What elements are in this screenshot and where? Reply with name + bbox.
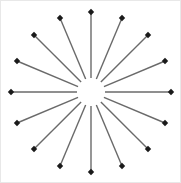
arrow-tip-wsw (14, 120, 20, 126)
arrow-tip-nne (119, 15, 125, 21)
arrow-tip-wnw (14, 58, 20, 64)
arrow-tip-ese (162, 120, 168, 126)
ray-shaft-nw (34, 35, 81, 82)
ray-shaft-ese (104, 97, 165, 123)
ray-shaft-ne (101, 35, 148, 82)
arrow-tip-ssw (57, 163, 63, 169)
ray-shaft-sse (96, 105, 122, 166)
starburst-canvas (1, 1, 181, 183)
arrow-tip-e (168, 89, 174, 95)
arrow-tip-sse (119, 163, 125, 169)
arrow-tip-s (88, 169, 94, 175)
ray-shaft-ssw (60, 105, 86, 166)
arrow-tip-w (8, 89, 14, 95)
ray-shaft-wnw (17, 61, 78, 87)
ray-shaft-ene (104, 61, 165, 87)
arrow-tip-n (88, 9, 94, 15)
ray-shaft-nnw (60, 18, 86, 79)
arrow-tip-nnw (57, 15, 63, 21)
ray-shaft-wsw (17, 97, 78, 123)
arrow-tip-ene (162, 58, 168, 64)
ray-shaft-se (101, 102, 148, 149)
ray-shaft-nne (96, 18, 122, 79)
ray-shaft-sw (34, 102, 81, 149)
starburst-figure (0, 0, 181, 183)
